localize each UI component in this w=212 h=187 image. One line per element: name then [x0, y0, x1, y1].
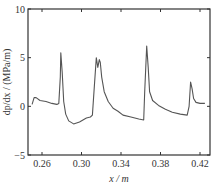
x-tick-label: 0.26 [33, 158, 51, 169]
y-axis-label: dp/dx / (MPa/m) [1, 49, 13, 116]
data-line [32, 46, 205, 124]
y-tick-label: 0 [20, 101, 25, 112]
x-tick-label: 0.42 [191, 158, 209, 169]
x-axis-label: x / m [108, 173, 128, 184]
y-tick-label: −5 [14, 150, 25, 161]
chart: −505100.260.300.340.380.42x / mdp/dx / (… [0, 0, 212, 187]
x-tick-label: 0.30 [73, 158, 91, 169]
plot-area [32, 46, 205, 124]
x-tick-label: 0.38 [152, 158, 170, 169]
x-tick-label: 0.34 [112, 158, 130, 169]
plot-frame [28, 9, 210, 155]
y-tick-label: 10 [15, 4, 25, 15]
y-tick-label: 5 [20, 52, 25, 63]
